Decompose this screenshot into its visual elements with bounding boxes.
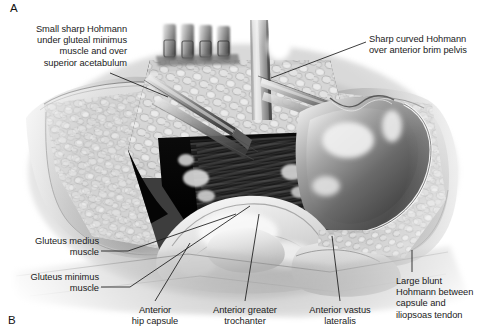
- annotation-sharp-curved-hohmann: Sharp curved Hohmann over anterior brim …: [369, 34, 485, 56]
- annotation-anterior-vastus-lateralis: Anterior vastus lateralis: [296, 305, 384, 327]
- annotation-anterior-hip-capsule: Anterior hip capsule: [118, 305, 192, 327]
- annotation-small-sharp-hohmann: Small sharp Hohmann under gluteal minimu…: [4, 24, 127, 69]
- annotation-gluteus-minimus-muscle: Gluteus minimus muscle: [2, 272, 99, 294]
- surgical-illustration-figure: Small sharp Hohmann under gluteal minimu…: [0, 0, 486, 336]
- annotation-large-blunt-hohmann: Large blunt Hohmann between capsule and …: [396, 276, 486, 321]
- panel-letter-b: B: [8, 314, 16, 326]
- panel-letter-a: A: [10, 2, 18, 14]
- annotation-gluteus-medius-muscle: Gluteus medius muscle: [2, 236, 99, 258]
- annotation-anterior-greater-trochanter: Anterior greater trochanter: [197, 305, 293, 327]
